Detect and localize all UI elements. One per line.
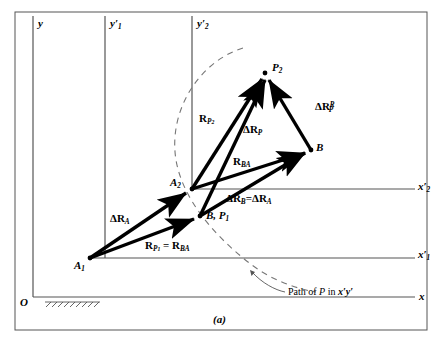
point-label-P2: P2	[272, 62, 282, 75]
path-of-P-note: Path of P in x′y′	[288, 287, 353, 297]
x2-axis-label: x′2	[418, 181, 430, 194]
path-note-leader	[252, 272, 285, 292]
y-axis-label: y	[38, 18, 43, 29]
ground-hatch-icon	[45, 302, 100, 307]
point-BP1-dot	[198, 214, 203, 219]
path-of-P-curve	[175, 48, 316, 292]
figure-container: y y′1 y′2 x x′1 x′2 O A1 A2 B, P1 B P2 Δ…	[0, 0, 440, 344]
figure-caption: (a)	[213, 314, 226, 325]
origin-label: O	[20, 297, 28, 308]
vector-label-RP2: RP2	[199, 113, 214, 126]
point-A1-dot	[88, 256, 93, 261]
vector-label-delta-RA: ΔRA	[110, 213, 130, 226]
x1-axis-label: x′1	[418, 249, 430, 262]
point-A2-dot	[190, 187, 195, 192]
vector-label-RBA: RBA	[233, 156, 251, 169]
y2-axis-label: y′2	[197, 18, 209, 31]
vector-label-delta-RP: ΔRP	[243, 124, 262, 137]
point-label-A2: A2	[170, 177, 181, 190]
point-B-dot	[309, 148, 314, 153]
vector-label-delta-RP-rotational: ΔRRP	[315, 101, 333, 114]
x-axis-label: x	[419, 291, 425, 302]
vector-label-delta-RB-eq-delta-RA: ΔRB=ΔRA	[226, 193, 272, 206]
point-P2-dot	[263, 71, 268, 76]
path-note-arrow-icon	[250, 270, 255, 276]
vector-label-RP1-eq-RBA: RP1 = RBA	[145, 240, 190, 253]
y1-axis-label: y′1	[110, 18, 122, 31]
point-label-A1: A1	[74, 260, 85, 273]
point-label-B-P1: B, P1	[206, 210, 229, 223]
diagram-canvas	[0, 0, 440, 344]
point-label-B: B	[316, 142, 323, 153]
vector-delta-RP-rotational	[269, 80, 311, 150]
